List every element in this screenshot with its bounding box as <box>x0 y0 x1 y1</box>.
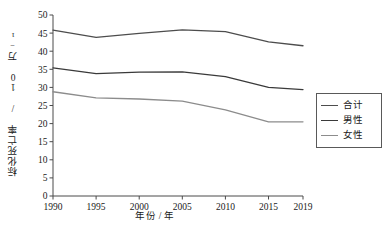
legend-item-female: 女性 <box>320 128 377 143</box>
svg-text:0: 0 <box>43 191 48 201</box>
x-axis-title: 年份 / 年 <box>0 208 310 222</box>
svg-text:40: 40 <box>38 47 48 57</box>
svg-text:5: 5 <box>43 173 48 183</box>
legend-item-male: 男性 <box>320 113 377 128</box>
legend-line-swatch-total <box>321 105 338 106</box>
svg-text:25: 25 <box>38 101 48 111</box>
svg-text:30: 30 <box>38 83 48 93</box>
svg-text:20: 20 <box>38 119 48 129</box>
svg-text:45: 45 <box>38 29 48 39</box>
svg-text:15: 15 <box>38 137 48 147</box>
legend-line-swatch-male <box>321 120 338 121</box>
chart-legend: 合计 男性 女性 <box>316 93 382 148</box>
legend-label-male: 男性 <box>343 115 363 126</box>
legend-line-swatch-female <box>321 135 338 136</box>
svg-text:35: 35 <box>38 65 48 75</box>
y-axis-title: 标化死亡率 / 10 万⁻¹ <box>6 28 20 176</box>
legend-label-female: 女性 <box>343 130 363 141</box>
svg-text:50: 50 <box>38 10 48 20</box>
legend-label-total: 合计 <box>343 100 363 111</box>
figure-container: 0510152025303540455019901995200020052010… <box>0 0 392 243</box>
svg-text:10: 10 <box>38 155 48 165</box>
legend-item-total: 合计 <box>320 98 377 113</box>
